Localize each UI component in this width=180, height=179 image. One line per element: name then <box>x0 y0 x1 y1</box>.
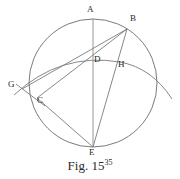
point-label-D: D <box>94 55 101 64</box>
point-label-G: G <box>8 80 15 89</box>
segment-G-B <box>22 29 127 89</box>
point-label-B: B <box>130 14 136 23</box>
figure-caption: Fig. 1535 <box>0 158 180 174</box>
segment-C-E <box>37 98 93 147</box>
figure-container: A B D H G C E Fig. 1535 <box>0 0 180 179</box>
point-label-A: A <box>87 5 94 14</box>
segment-B-E <box>93 29 127 147</box>
caption-text: Fig. 15 <box>68 158 105 173</box>
point-label-C: C <box>37 96 43 105</box>
caption-superscript: 35 <box>104 158 112 167</box>
point-label-H: H <box>118 60 125 69</box>
segment-C-B <box>37 29 127 98</box>
point-label-E: E <box>89 148 95 157</box>
